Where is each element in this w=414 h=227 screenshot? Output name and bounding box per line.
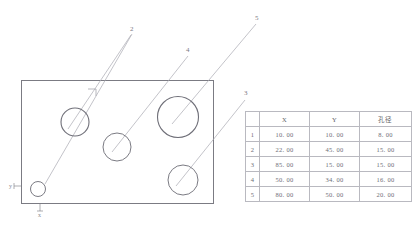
callout-label-3: 3	[244, 90, 248, 97]
leader-line-hole-2	[68, 35, 131, 129]
column-header-y: Y	[310, 112, 360, 127]
table-header-row: X Y 孔径	[246, 112, 412, 127]
hole-circle-3	[168, 165, 198, 195]
column-header-x: X	[260, 112, 310, 127]
cell-diameter: 16. 00	[360, 172, 412, 187]
hole-circle-1	[31, 182, 46, 197]
column-header-diameter: 孔径	[360, 112, 412, 127]
cell-y: 45. 00	[310, 142, 360, 157]
cell-diameter: 20. 00	[360, 187, 412, 202]
cell-index: 3	[246, 157, 260, 172]
column-header-index	[246, 112, 260, 127]
table-row: 3 85. 00 15. 00 15. 00	[246, 157, 412, 172]
hole-circle-4	[103, 133, 131, 161]
cell-diameter: 15. 00	[360, 157, 412, 172]
cell-diameter: 8. 00	[360, 127, 412, 142]
y-axis-label: y	[9, 183, 12, 189]
table-row: 5 80. 00 50. 00 20. 00	[246, 187, 412, 202]
table-row: 1 10. 00 10. 00 8. 00	[246, 127, 412, 142]
cell-index: 4	[246, 172, 260, 187]
table-row: 2 22. 00 45. 00 15. 00	[246, 142, 412, 157]
cell-y: 50. 00	[310, 187, 360, 202]
rectangular-plate-outline	[22, 81, 214, 204]
callout-label-2: 2	[130, 26, 134, 33]
engineering-drawing-screen: 2 4 5 3 y x X Y 孔径 1 10. 00 10. 00 8. 00	[0, 0, 414, 227]
cell-x: 85. 00	[260, 157, 310, 172]
leader-line-hole-3	[176, 100, 245, 186]
cell-index: 2	[246, 142, 260, 157]
cell-y: 34. 00	[310, 172, 360, 187]
table-row: 4 50. 00 34. 00 16. 00	[246, 172, 412, 187]
callout-label-4: 4	[186, 47, 190, 54]
cell-x: 22. 00	[260, 142, 310, 157]
leader-line-hole-1	[45, 34, 132, 184]
cell-x: 80. 00	[260, 187, 310, 202]
cell-index: 1	[246, 127, 260, 142]
cell-index: 5	[246, 187, 260, 202]
cell-x: 50. 00	[260, 172, 310, 187]
x-axis-label: x	[38, 212, 41, 218]
hole-coordinate-table: X Y 孔径 1 10. 00 10. 00 8. 00 2 22. 00 45…	[245, 111, 412, 202]
cell-x: 10. 00	[260, 127, 310, 142]
cell-diameter: 15. 00	[360, 142, 412, 157]
cell-y: 10. 00	[310, 127, 360, 142]
corner-datum-mark	[88, 89, 96, 96]
callout-label-5: 5	[255, 15, 259, 22]
cell-y: 15. 00	[310, 157, 360, 172]
